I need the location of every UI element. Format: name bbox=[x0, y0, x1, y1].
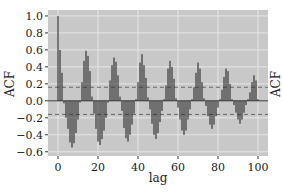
y-tick-label: 0.2 bbox=[26, 78, 44, 91]
acf-bar bbox=[169, 61, 170, 101]
acf-bar bbox=[185, 101, 186, 131]
y-tick-label: −0.6 bbox=[16, 146, 43, 159]
acf-bar bbox=[191, 99, 192, 101]
acf-bar bbox=[237, 101, 238, 120]
acf-bar bbox=[189, 101, 190, 109]
x-tick-label: 60 bbox=[171, 161, 185, 174]
acf-bar bbox=[67, 101, 68, 129]
acf-bar bbox=[109, 80, 110, 100]
acf-bar bbox=[87, 56, 88, 101]
acf-bar bbox=[217, 101, 218, 108]
acf-bar bbox=[249, 92, 250, 100]
acf-bar bbox=[145, 78, 146, 101]
acf-bar bbox=[65, 101, 66, 118]
acf-bar bbox=[127, 101, 128, 142]
x-tick-label: 40 bbox=[131, 161, 145, 174]
acf-bar bbox=[121, 101, 122, 111]
acf-bar bbox=[241, 101, 242, 120]
acf-bar bbox=[251, 82, 252, 101]
y-tick-label: −0.4 bbox=[16, 129, 43, 142]
acf-bar bbox=[219, 99, 220, 101]
acf-bar bbox=[123, 101, 124, 128]
acf-bar bbox=[161, 101, 162, 111]
acf-bar bbox=[111, 65, 112, 101]
acf-bar bbox=[137, 82, 138, 101]
acf-bar bbox=[213, 101, 214, 125]
acf-bar bbox=[171, 67, 172, 101]
y-tick-label: 0.8 bbox=[26, 27, 44, 40]
acf-chart: −0.6−0.4−0.20.00.20.40.60.81.0 020406080… bbox=[0, 0, 283, 192]
x-tick-label: 20 bbox=[91, 161, 105, 174]
acf-bar bbox=[229, 84, 230, 101]
acf-bar bbox=[257, 99, 258, 101]
acf-bar bbox=[173, 79, 174, 101]
acf-bar bbox=[79, 101, 80, 103]
acf-bar bbox=[175, 98, 176, 101]
acf-bar bbox=[209, 101, 210, 125]
acf-bar bbox=[243, 101, 244, 113]
acf-bar bbox=[181, 101, 182, 131]
y-axis-label: ACF bbox=[3, 71, 17, 98]
y-axis-ticks: −0.6−0.4−0.20.00.20.40.60.81.0 bbox=[16, 10, 48, 159]
acf-bar bbox=[131, 101, 132, 125]
acf-bar bbox=[203, 98, 204, 101]
acf-bar bbox=[95, 101, 96, 129]
acf-bar bbox=[73, 101, 74, 143]
acf-bar bbox=[205, 101, 206, 106]
acf-bar bbox=[253, 75, 254, 100]
acf-bar bbox=[167, 69, 168, 101]
acf-bar bbox=[83, 61, 84, 101]
acf-bar bbox=[129, 101, 130, 135]
acf-bar bbox=[85, 51, 86, 101]
acf-bar bbox=[119, 97, 120, 101]
acf-bar bbox=[193, 87, 194, 101]
acf-bar bbox=[177, 101, 178, 108]
acf-bar bbox=[239, 101, 240, 124]
acf-bar bbox=[133, 101, 134, 114]
acf-bar bbox=[223, 77, 224, 101]
acf-bar bbox=[125, 101, 126, 138]
acf-bar bbox=[231, 99, 232, 101]
acf-bar bbox=[153, 101, 154, 135]
y-tick-label: 0.6 bbox=[26, 44, 44, 57]
acf-bar bbox=[165, 86, 166, 101]
acf-bar bbox=[155, 101, 156, 139]
x-tick-label: 100 bbox=[248, 161, 269, 174]
acf-bar bbox=[63, 101, 64, 104]
acf-bar bbox=[187, 101, 188, 120]
acf-bar bbox=[199, 69, 200, 101]
acf-bar bbox=[157, 101, 158, 133]
acf-bar bbox=[113, 58, 114, 101]
acf-bar bbox=[201, 82, 202, 101]
acf-bar bbox=[221, 90, 222, 101]
acf-bar bbox=[215, 101, 216, 116]
x-axis-label: lag bbox=[149, 171, 168, 185]
acf-bar bbox=[117, 75, 118, 100]
acf-bar bbox=[179, 101, 180, 120]
acf-bar bbox=[147, 97, 148, 100]
acf-bar bbox=[107, 101, 108, 103]
acf-bar bbox=[255, 80, 256, 100]
x-tick-label: 80 bbox=[211, 161, 225, 174]
x-tick-label: 0 bbox=[55, 161, 62, 174]
acf-bar bbox=[115, 62, 116, 101]
acf-bar bbox=[105, 101, 106, 118]
acf-bar bbox=[163, 99, 164, 101]
acf-bar bbox=[143, 65, 144, 101]
acf-bar bbox=[195, 73, 196, 101]
acf-bar bbox=[77, 101, 78, 120]
acf-bar bbox=[139, 63, 140, 101]
acf-bar bbox=[183, 101, 184, 135]
acf-bar bbox=[235, 101, 236, 113]
acf-bar bbox=[159, 101, 160, 122]
y-tick-label: −0.2 bbox=[16, 112, 43, 125]
acf-bar bbox=[103, 101, 104, 131]
acf-bar bbox=[97, 101, 98, 142]
acf-bar bbox=[151, 101, 152, 124]
acf-bar bbox=[89, 71, 90, 101]
acf-bar bbox=[227, 71, 228, 101]
acf-bar bbox=[233, 101, 234, 105]
acf-bar bbox=[197, 63, 198, 101]
y-axis-label-right: ACF bbox=[269, 71, 283, 98]
acf-bar bbox=[135, 99, 136, 101]
